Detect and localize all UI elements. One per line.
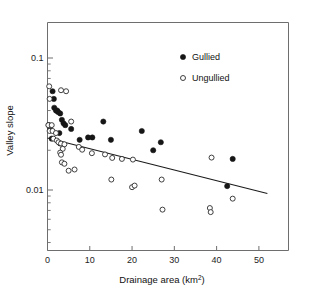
x-tick-label-10: 10: [85, 255, 95, 265]
y-tick-label-0.1: 0.1: [31, 53, 44, 63]
data-point-ungullied: [80, 147, 85, 152]
data-point-ungullied: [53, 131, 58, 136]
data-point-gullied: [151, 148, 156, 153]
x-axis-title: Drainage area (km2): [119, 274, 204, 285]
data-point-gullied: [77, 137, 82, 142]
data-point-ungullied: [230, 196, 235, 201]
data-point-ungullied: [110, 155, 115, 160]
legend-marker-gullied: [180, 54, 185, 59]
data-point-ungullied: [72, 167, 77, 172]
data-point-gullied: [101, 119, 106, 124]
x-tick-label-40: 40: [212, 255, 222, 265]
data-point-gullied: [63, 123, 68, 128]
data-point-gullied: [139, 128, 144, 133]
data-point-gullied: [108, 137, 113, 142]
data-point-ungullied: [208, 210, 213, 215]
data-point-gullied: [50, 89, 55, 94]
y-tick-label-0.01: 0.01: [26, 185, 44, 195]
legend-label-ungullied: Ungullied: [192, 73, 230, 83]
legend-marker-ungullied: [181, 76, 186, 81]
x-axis-title-close-paren: ): [202, 274, 205, 285]
data-point-ungullied: [59, 152, 64, 157]
x-tick-label-0: 0: [45, 255, 50, 265]
data-point-ungullied: [209, 155, 214, 160]
data-point-gullied: [230, 156, 235, 161]
y-axis-title: Valley slope: [4, 105, 15, 156]
data-point-gullied: [90, 135, 95, 140]
data-point-gullied: [58, 111, 63, 116]
axis-frame: [48, 23, 289, 251]
data-point-ungullied: [119, 156, 124, 161]
data-point-ungullied: [132, 183, 137, 188]
data-point-ungullied: [66, 168, 71, 173]
data-point-ungullied: [109, 177, 114, 182]
data-point-gullied: [225, 184, 230, 189]
data-point-ungullied: [64, 89, 69, 94]
data-point-ungullied: [159, 177, 164, 182]
data-point-ungullied: [62, 161, 67, 166]
data-point-ungullied: [49, 123, 54, 128]
data-point-gullied: [158, 140, 163, 145]
data-point-ungullied: [103, 152, 108, 157]
x-tick-label-30: 30: [169, 255, 179, 265]
x-tick-label-20: 20: [127, 255, 137, 265]
plot-svg: 010203040500.10.01Drainage area (km2)Val…: [0, 0, 309, 289]
legend-label-gullied: Gullied: [192, 52, 220, 62]
data-point-ungullied: [89, 151, 94, 156]
scatter-plot-figure: 010203040500.10.01Drainage area (km2)Val…: [0, 0, 309, 289]
data-point-ungullied: [47, 96, 52, 101]
x-tick-label-50: 50: [254, 255, 264, 265]
data-point-ungullied: [130, 157, 135, 162]
data-point-ungullied: [59, 88, 64, 93]
data-point-ungullied: [69, 119, 74, 124]
data-point-gullied: [69, 126, 74, 131]
data-point-ungullied: [160, 207, 165, 212]
data-point-ungullied: [47, 84, 52, 89]
